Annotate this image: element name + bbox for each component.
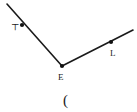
point-label-vertex: E bbox=[58, 72, 64, 82]
paren-annotation: ( bbox=[63, 92, 68, 109]
point-dot-left bbox=[20, 23, 24, 27]
angle-figure: ⊤ E L ( bbox=[0, 0, 137, 112]
segment-left-arm bbox=[7, 4, 62, 66]
point-dot-right bbox=[109, 40, 113, 44]
segment-right-arm bbox=[62, 30, 133, 66]
angle-diagram-canvas: ⊤ E L ( bbox=[0, 0, 137, 112]
point-dot-vertex bbox=[60, 64, 64, 68]
point-label-right: L bbox=[110, 48, 116, 58]
point-label-left: ⊤ bbox=[11, 22, 19, 32]
